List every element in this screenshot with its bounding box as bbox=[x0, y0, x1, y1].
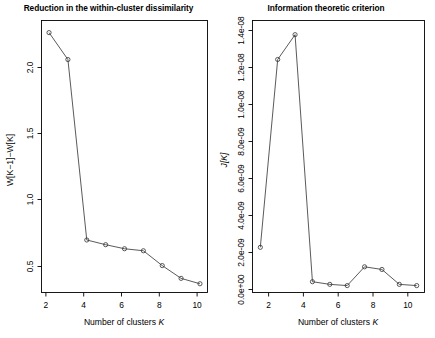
svg-text:8.0e-09: 8.0e-09 bbox=[236, 127, 246, 156]
svg-text:2: 2 bbox=[266, 300, 271, 310]
svg-text:6: 6 bbox=[336, 300, 341, 310]
y-axis-label-right: J[K] bbox=[219, 152, 229, 168]
panel-left: Reduction in the within-cluster dissimil… bbox=[0, 0, 217, 338]
y-axis-tick-labels-right: 0.0e+00 2.0e-09 4.0e-09 6.0e-09 8.0e-09 … bbox=[236, 16, 246, 305]
x-axis-ticks-left bbox=[46, 293, 197, 297]
svg-text:2.0: 2.0 bbox=[25, 61, 35, 73]
series-line-left bbox=[49, 33, 200, 284]
x-axis-label-left: Number of clusters K bbox=[84, 317, 166, 327]
svg-text:6.0e-09: 6.0e-09 bbox=[236, 164, 246, 193]
svg-text:0.0e+00: 0.0e+00 bbox=[236, 274, 246, 305]
x-axis-tick-labels-right: 2 4 6 8 10 bbox=[266, 300, 413, 310]
svg-text:1.0e-08: 1.0e-08 bbox=[236, 90, 246, 119]
svg-text:4.0e-09: 4.0e-09 bbox=[236, 201, 246, 230]
panel-right: Information theoretic criterion 0.0e+00 … bbox=[217, 0, 435, 338]
svg-text:10: 10 bbox=[403, 300, 413, 310]
panel-left-plot: 0.5 1.0 1.5 2.0 2 4 6 8 10 Number bbox=[0, 0, 217, 338]
svg-text:6: 6 bbox=[119, 300, 124, 310]
y-axis-ticks-left bbox=[38, 68, 42, 267]
svg-text:1.0: 1.0 bbox=[25, 193, 35, 205]
series-points-right bbox=[258, 33, 419, 288]
svg-text:4: 4 bbox=[301, 300, 306, 310]
svg-text:8: 8 bbox=[157, 300, 162, 310]
svg-text:2.0e-09: 2.0e-09 bbox=[236, 238, 246, 267]
series-line-right bbox=[260, 35, 416, 286]
svg-text:4: 4 bbox=[81, 300, 86, 310]
svg-text:0.5: 0.5 bbox=[25, 260, 35, 272]
panel-right-plot: 0.0e+00 2.0e-09 4.0e-09 6.0e-09 8.0e-09 … bbox=[217, 0, 435, 338]
y-axis-label-left: W[K−1]−W[K] bbox=[5, 134, 15, 186]
svg-text:10: 10 bbox=[192, 300, 202, 310]
x-axis-ticks-right bbox=[269, 293, 408, 297]
y-axis-tick-labels-left: 0.5 1.0 1.5 2.0 bbox=[25, 61, 35, 272]
x-axis-tick-labels-left: 2 4 6 8 10 bbox=[44, 300, 203, 310]
svg-text:1.4e-08: 1.4e-08 bbox=[236, 16, 246, 45]
x-axis-label-right: Number of clusters K bbox=[298, 317, 380, 327]
figure-panel-pair: Reduction in the within-cluster dissimil… bbox=[0, 0, 435, 338]
series-points-left bbox=[47, 31, 202, 286]
svg-text:2: 2 bbox=[44, 300, 49, 310]
y-axis-ticks-right bbox=[249, 31, 253, 290]
svg-text:1.2e-08: 1.2e-08 bbox=[236, 53, 246, 82]
svg-text:1.5: 1.5 bbox=[25, 127, 35, 139]
svg-text:8: 8 bbox=[371, 300, 376, 310]
